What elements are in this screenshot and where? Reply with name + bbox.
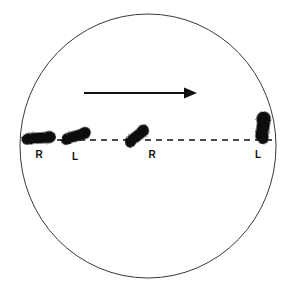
footprint-print-4: L [253, 111, 272, 160]
diagram-canvas: R L R L [0, 0, 286, 294]
footprint-label-1: R [35, 149, 43, 160]
footprint-diagram: R L R L [0, 0, 286, 294]
boundary-circle [20, 14, 276, 278]
footprint-label-3: R [148, 149, 156, 160]
footprint-print-1: R [21, 131, 56, 160]
direction-arrow [84, 88, 197, 99]
footprint-print-2: L [59, 125, 92, 162]
footprint-label-2: L [72, 151, 78, 162]
footprint-print-3: R [122, 122, 157, 160]
footprint-label-4: L [255, 149, 261, 160]
arrow-head-icon [184, 88, 197, 99]
